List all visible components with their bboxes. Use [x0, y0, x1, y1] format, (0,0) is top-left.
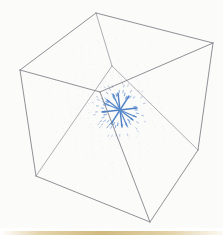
field-arrow — [116, 94, 117, 97]
bottom-edge-band — [0, 231, 223, 235]
field-arrow — [115, 126, 116, 128]
figure-canvas — [0, 0, 223, 237]
field-arrow-group — [134, 106, 137, 107]
vector-field-plot — [0, 0, 223, 237]
plot-background — [0, 0, 223, 237]
field-arrow-group — [115, 126, 116, 128]
field-arrow — [134, 106, 137, 107]
field-arrow-group — [116, 94, 117, 97]
